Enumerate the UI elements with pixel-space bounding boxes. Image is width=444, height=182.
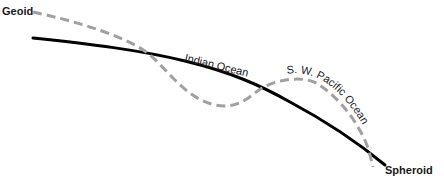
- spheroid-label: Spheroid: [385, 164, 433, 176]
- geoid-spheroid-diagram: Geoid Spheroid Indian Ocean S. W. Pacifi…: [0, 0, 444, 182]
- diagram-canvas: Geoid Spheroid Indian Ocean S. W. Pacifi…: [0, 0, 444, 182]
- indian-ocean-label: Indian Ocean: [184, 51, 250, 78]
- geoid-label: Geoid: [2, 5, 33, 17]
- geoid-curve: [33, 12, 373, 167]
- sw-pacific-ocean-label: S. W. Pacific Ocean: [286, 63, 371, 126]
- sw-pacific-ocean-text: S. W. Pacific Ocean: [286, 63, 371, 126]
